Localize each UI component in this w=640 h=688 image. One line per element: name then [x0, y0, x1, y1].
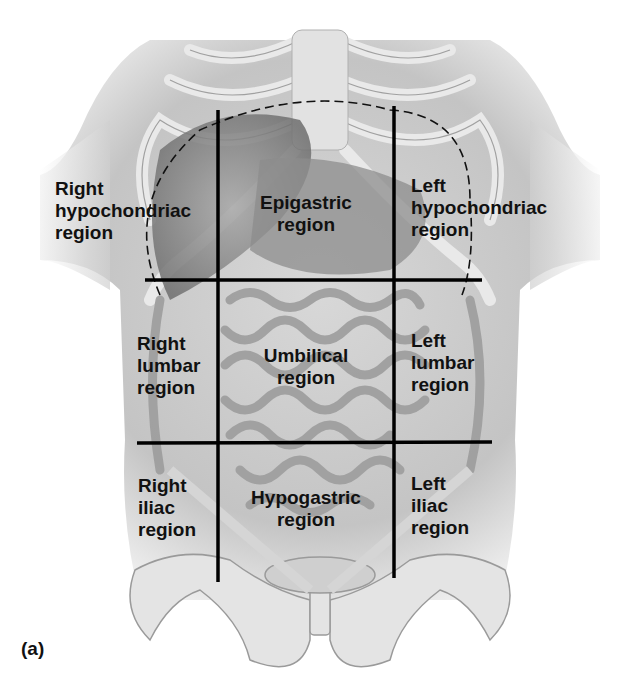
- label-right-hypochondriac: Right hypochondriac region: [55, 178, 191, 244]
- figure-label: (a): [21, 638, 44, 660]
- label-umbilical: Umbilical region: [236, 345, 376, 389]
- abdomen-illustration: [0, 0, 640, 688]
- label-left-iliac: Left iliac region: [411, 473, 469, 539]
- label-right-iliac: Right iliac region: [138, 475, 196, 541]
- label-right-lumbar: Right lumbar region: [137, 333, 200, 399]
- label-left-hypochondriac: Left hypochondriac region: [411, 175, 547, 241]
- pelvis: [130, 554, 510, 666]
- label-epigastric: Epigastric region: [236, 192, 376, 236]
- label-left-lumbar: Left lumbar region: [411, 330, 474, 396]
- label-hypogastric: Hypogastric region: [236, 487, 376, 531]
- lower-horizontal-line: [137, 442, 492, 443]
